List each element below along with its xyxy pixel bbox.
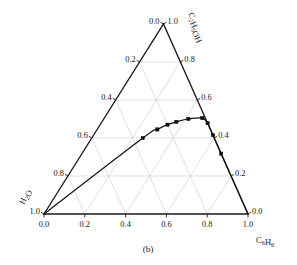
tick-label-bottom-1: 0.2: [80, 220, 90, 229]
data-marker: [166, 123, 169, 126]
vertex-labels-group: C2H5OH H2O C6H6: [17, 11, 274, 248]
tick-label-bottom-0: 0.0: [39, 220, 49, 229]
tick-label-left-5: 1.0: [30, 207, 40, 216]
tick-label-left-2: 0.4: [101, 93, 112, 102]
tick-label-bottom-3: 0.6: [161, 220, 171, 229]
tick-label-bottom-5: 1.0: [243, 220, 253, 229]
data-marker: [201, 116, 204, 119]
tick-label-left-4: 0.8: [53, 169, 63, 178]
tick-label-right-4: 0.2: [235, 169, 245, 178]
data-marker: [206, 121, 209, 124]
tick-label-right-3: 0.4: [218, 131, 229, 140]
ternary-plot-svg: 0.00.20.40.60.81.00.00.20.40.60.81.01.00…: [0, 0, 297, 265]
ternary-diagram-figure: 0.00.20.40.60.81.00.00.20.40.60.81.01.00…: [0, 0, 297, 265]
axes-group: [44, 24, 248, 214]
tick-label-bottom-4: 0.8: [202, 220, 212, 229]
data-marker: [187, 117, 190, 120]
triangle-outline: [44, 24, 248, 214]
tick-label-bottom-2: 0.4: [120, 220, 131, 229]
vertex-label-ethanol: C2H5OH: [183, 11, 208, 45]
tick-labels-group: 0.00.20.40.60.81.00.00.20.40.60.81.01.00…: [30, 17, 263, 229]
tick-label-right-5: 0.0: [252, 207, 262, 216]
tick-label-right-0: 1.0: [167, 17, 177, 26]
data-marker: [211, 133, 214, 136]
vertex-label-benzene: C6H6: [256, 235, 274, 248]
tick-label-right-1: 0.8: [184, 55, 194, 64]
data-marker: [141, 136, 144, 139]
tick-label-left-0: 0.0: [149, 17, 159, 26]
tick-label-left-1: 0.2: [125, 55, 135, 64]
data-marker: [156, 128, 159, 131]
figure-caption: (b): [143, 244, 154, 254]
tick-label-left-3: 0.6: [77, 131, 87, 140]
data-marker: [175, 120, 178, 123]
vertex-label-water: H2O: [17, 187, 35, 206]
tick-label-right-2: 0.6: [201, 93, 211, 102]
data-markers-group: [141, 116, 223, 155]
data-marker: [220, 152, 223, 155]
